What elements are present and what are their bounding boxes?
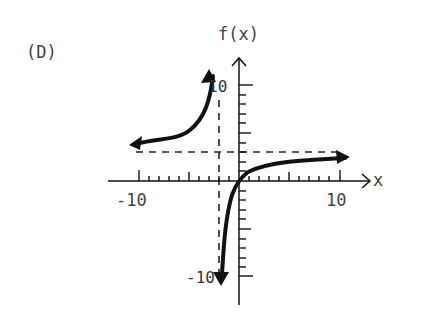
left-branch-curve — [129, 69, 216, 150]
arrow-down-icon — [213, 272, 229, 286]
y-tick-label-bottom: -10 — [186, 268, 215, 287]
y-tick-label-top: 10 — [208, 77, 227, 96]
function-graph: 10 -10 — [0, 0, 421, 329]
arrow-right-icon — [336, 150, 350, 164]
right-branch-curve — [213, 150, 350, 286]
arrow-left-icon — [129, 136, 142, 150]
